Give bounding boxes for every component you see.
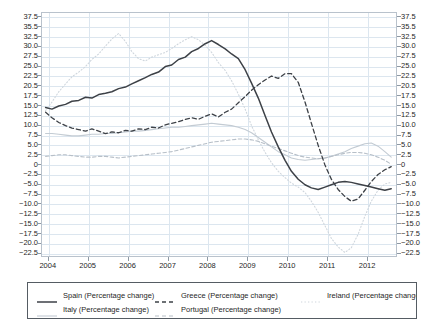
x-axis-tick-label: 2012	[359, 262, 376, 270]
y-axis-tick-label: 35.5	[401, 23, 437, 31]
y-axis-tick-mark	[397, 223, 401, 224]
y-axis-tick-mark	[37, 233, 41, 234]
y-axis-tick-label: −12.5	[8, 210, 38, 218]
y-axis-tick-label: 22.5	[401, 72, 437, 80]
x-axis-tick-mark	[48, 257, 49, 261]
y-axis-tick-label: −20.0	[8, 239, 38, 247]
y-axis-tick-mark	[397, 46, 401, 47]
y-axis-tick-label: 15.0	[8, 102, 38, 110]
x-axis-tick-mark	[207, 257, 208, 261]
x-axis-tick-label: 2006	[119, 262, 136, 270]
y-axis-tick-label: 0	[8, 161, 38, 169]
y-axis-tick-mark	[397, 36, 401, 37]
y-axis-tick-label: 20.5	[401, 82, 437, 90]
x-axis-tick-mark	[367, 257, 368, 261]
x-axis-tick-mark	[327, 257, 328, 261]
legend-swatch-italy-icon	[36, 306, 58, 314]
y-axis-tick-label: 5.0	[8, 141, 38, 149]
y-axis-tick-mark	[397, 203, 401, 204]
y-axis-tick-mark	[37, 115, 41, 116]
y-axis-tick-label: 7.5	[8, 131, 38, 139]
legend-label: Ireland (Percentage change)	[327, 292, 417, 300]
y-axis-tick-mark	[397, 16, 401, 17]
y-axis-tick-label: 17.5	[8, 92, 38, 100]
y-axis-tick-mark	[37, 164, 41, 165]
y-axis-tick-mark	[397, 174, 401, 175]
y-axis-tick-label: 12.5	[401, 111, 437, 119]
y-axis-tick-label: 32.5	[401, 33, 437, 41]
y-axis-tick-label: 7.5	[401, 131, 437, 139]
y-axis-tick-mark	[397, 135, 401, 136]
y-axis-tick-mark	[37, 174, 41, 175]
y-axis-tick-label: 32.5	[8, 33, 38, 41]
y-axis-tick-label: −22.5	[8, 249, 38, 257]
y-axis-tick-label: 37.5	[401, 13, 437, 21]
y-axis-tick-label: 10.0	[8, 121, 38, 129]
legend-entry-portugal[interactable]: Portugal (Percentage change)	[154, 304, 281, 316]
legend-swatch-spain-icon	[36, 292, 58, 300]
y-axis-tick-mark	[37, 194, 41, 195]
x-axis-tick-mark	[128, 257, 129, 261]
y-axis-tick-mark	[397, 253, 401, 254]
legend-swatch-portugal-icon	[154, 306, 176, 314]
legend-swatch-greece-icon	[154, 292, 176, 300]
y-axis-tick-mark	[397, 154, 401, 155]
y-axis-tick-label: −10.0	[401, 200, 437, 208]
y-axis-tick-label: 20.5	[8, 82, 38, 90]
y-axis-tick-label: −12.5	[401, 210, 437, 218]
y-axis-tick-label: 37.5	[8, 13, 38, 21]
y-axis-tick-mark	[37, 125, 41, 126]
y-axis-tick-label: 25.0	[401, 62, 437, 70]
x-axis-tick-label: 2004	[39, 262, 56, 270]
y-axis-tick-mark	[397, 56, 401, 57]
y-axis-right-labels: 37.535.532.530.027.525.022.520.517.515.0…	[401, 12, 437, 257]
y-axis-tick-mark	[37, 105, 41, 106]
y-axis-tick-mark	[397, 85, 401, 86]
y-axis-tick-mark	[37, 85, 41, 86]
y-axis-tick-label: 17.5	[401, 92, 437, 100]
y-axis-tick-mark	[37, 243, 41, 244]
y-axis-tick-mark	[37, 46, 41, 47]
y-axis-tick-mark	[397, 243, 401, 244]
y-axis-tick-mark	[37, 213, 41, 214]
y-axis-tick-label: −7.5	[8, 190, 38, 198]
y-axis-tick-mark	[37, 184, 41, 185]
x-axis-tick-label: 2009	[239, 262, 256, 270]
y-axis-tick-mark	[397, 213, 401, 214]
x-axis-tick-label: 2008	[199, 262, 216, 270]
legend-entry-spain[interactable]: Spain (Percentage change)	[36, 290, 154, 302]
y-axis-tick-label: 35.5	[8, 23, 38, 31]
x-axis-labels: 200420052006200720082009201020112012	[41, 262, 397, 276]
y-axis-tick-label: −2.5	[401, 170, 437, 178]
y-axis-tick-label: −5.0	[8, 180, 38, 188]
legend-entry-ireland[interactable]: Ireland (Percentage change)	[300, 290, 417, 302]
x-axis-tick-label: 2005	[79, 262, 96, 270]
y-axis-tick-label: −10.0	[8, 200, 38, 208]
y-axis-tick-label: −7.5	[401, 190, 437, 198]
y-axis-tick-label: 15.0	[401, 102, 437, 110]
y-axis-tick-label: −22.5	[401, 249, 437, 257]
legend-label: Greece (Percentage change)	[181, 292, 278, 300]
legend-entry-greece[interactable]: Greece (Percentage change)	[154, 290, 278, 302]
y-axis-tick-label: 0	[401, 161, 437, 169]
y-axis-tick-label: 22.5	[8, 72, 38, 80]
x-axis-tick-mark	[88, 257, 89, 261]
y-axis-tick-label: 12.5	[8, 111, 38, 119]
y-axis-tick-label: 27.5	[401, 52, 437, 60]
y-axis-tick-mark	[37, 203, 41, 204]
y-axis-tick-label: −17.5	[8, 230, 38, 238]
series-layer	[42, 13, 397, 257]
y-axis-tick-mark	[397, 115, 401, 116]
chart-legend: Spain (Percentage change)Greece (Percent…	[27, 282, 417, 319]
y-axis-tick-label: −2.5	[8, 170, 38, 178]
legend-entry-italy[interactable]: Italy (Percentage change)	[36, 304, 149, 316]
y-axis-tick-mark	[397, 184, 401, 185]
y-axis-tick-label: −5.0	[401, 180, 437, 188]
y-axis-tick-mark	[37, 223, 41, 224]
y-axis-tick-label: −17.5	[401, 230, 437, 238]
plot-area	[41, 12, 397, 257]
x-axis-tick-mark	[168, 257, 169, 261]
y-axis-tick-mark	[397, 144, 401, 145]
y-axis-tick-label: 30.0	[8, 42, 38, 50]
y-axis-tick-label: −20.0	[401, 239, 437, 247]
